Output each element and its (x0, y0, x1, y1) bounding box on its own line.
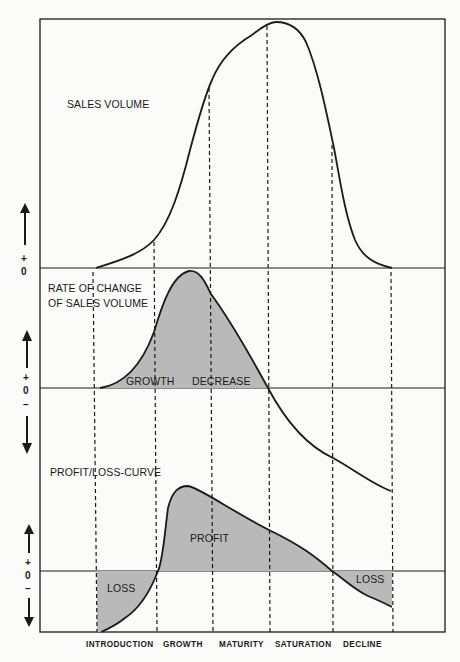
svg-text:–: – (23, 399, 29, 410)
loss-left-region-label: LOSS (107, 582, 135, 594)
stage-label-introduction: INTRODUCTION (86, 640, 154, 649)
svg-text:–: – (25, 583, 31, 594)
arrow-down-icon (22, 443, 32, 454)
growth-region-label: GROWTH (126, 375, 174, 387)
arrow-up-icon (22, 330, 32, 341)
profit-axis-indicator: + 0 – (24, 524, 34, 627)
svg-text:0: 0 (21, 266, 27, 277)
stage-label-saturation: SATURATION (275, 640, 331, 649)
decrease-region-label: DECREASE (192, 375, 251, 387)
rate-of-change-label-line2: OF SALES VOLUME (48, 297, 148, 309)
arrow-up-icon (24, 524, 34, 534)
svg-text:+: + (23, 372, 29, 383)
svg-text:0: 0 (23, 385, 29, 396)
arrow-up-icon (20, 203, 30, 213)
svg-text:0: 0 (25, 570, 31, 581)
svg-text:+: + (21, 253, 27, 264)
sales-volume-curve (96, 22, 392, 268)
sales-volume-label: SALES VOLUME (67, 98, 149, 110)
product-life-cycle-diagram: SALES VOLUME RATE OF CHANGE OF SALES VOL… (0, 0, 460, 662)
rate-of-change-label-line1: RATE OF CHANGE (48, 282, 142, 294)
stage-label-maturity: MATURITY (219, 640, 264, 649)
svg-text:+: + (25, 557, 31, 568)
rate-axis-indicator: + 0 – (22, 330, 32, 454)
arrow-down-icon (24, 617, 34, 627)
loss-left-area (97, 571, 158, 632)
profit-loss-curve-label: PROFIT/LOSS-CURVE (50, 466, 161, 478)
sales-axis-indicator: + 0 (20, 203, 30, 277)
profit-region-label: PROFIT (190, 532, 230, 544)
stage-label-growth: GROWTH (163, 640, 203, 649)
profit-area (158, 486, 332, 571)
stage-label-decline: DECLINE (343, 640, 382, 649)
loss-right-region-label: LOSS (356, 573, 384, 585)
